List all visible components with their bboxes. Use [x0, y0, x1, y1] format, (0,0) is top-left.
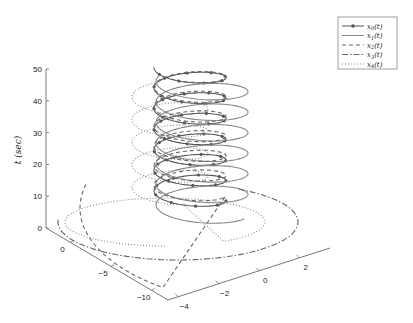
legend-entry: x1(t) — [367, 32, 383, 41]
y-tick-label: 0 — [263, 276, 268, 285]
z-tick-label: 10 — [33, 192, 42, 201]
series-0-marker — [219, 155, 222, 158]
legend-entry: x0(t) — [367, 23, 383, 32]
y-tick-label: 2 — [303, 263, 308, 272]
series-0-marker — [202, 132, 205, 135]
series-0-marker — [186, 142, 189, 145]
x-tick-label: −5 — [99, 269, 109, 278]
x-tick-label: −10 — [137, 293, 151, 302]
z-tick-label: 30 — [33, 129, 42, 138]
legend-entry: x4(t) — [367, 61, 383, 70]
series-0-marker — [197, 173, 200, 176]
series-0-marker — [222, 115, 225, 118]
series-0-marker — [163, 137, 166, 140]
3d-helix-chart: 010203040500−5−10−4−202 x0(t)x1(t)x2(t)x… — [0, 0, 413, 323]
series-0-marker — [194, 205, 197, 208]
series-0-marker — [188, 163, 191, 166]
series-0-marker — [220, 135, 223, 138]
z-tick-label: 40 — [33, 97, 42, 106]
y-tick-label: −4 — [180, 302, 190, 311]
z-axis-label: t (sec) — [13, 135, 23, 164]
z-tick-label: 50 — [33, 65, 42, 74]
series-0-marker — [216, 204, 219, 207]
legend-entry: x3(t) — [367, 51, 383, 60]
z-tick-label: 0 — [38, 224, 43, 233]
legend-entry: x2(t) — [367, 42, 383, 51]
series-0-marker — [205, 112, 208, 115]
series-0-marker — [191, 184, 194, 187]
y-tick-label: −2 — [220, 289, 230, 298]
series-3-line — [58, 189, 298, 260]
series-0-marker — [218, 175, 221, 178]
curves — [58, 67, 298, 287]
z-tick-label: 20 — [33, 160, 42, 169]
series-0-marker — [183, 121, 186, 124]
series-0-marker — [200, 153, 203, 156]
x-tick-label: 0 — [60, 245, 65, 254]
series-0-marker — [159, 119, 162, 122]
legend: x0(t)x1(t)x2(t)x3(t)x4(t) — [338, 17, 397, 69]
base-axes — [46, 228, 330, 300]
series-0-marker — [154, 193, 157, 196]
series-0-marker — [170, 201, 173, 204]
series-0-marker — [158, 141, 161, 144]
